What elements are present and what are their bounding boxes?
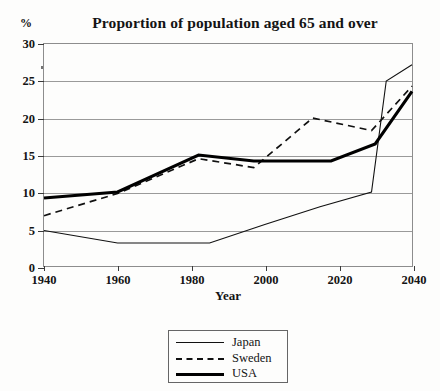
legend-label-sweden: Sweden: [232, 351, 272, 366]
x-axis-tick: [118, 266, 119, 271]
x-axis-tick-label: 1940: [32, 273, 57, 288]
y-axis-tick-label: 15: [23, 149, 36, 164]
chart-title: Proportion of population aged 65 and ove…: [55, 14, 415, 32]
x-axis-title: Year: [43, 288, 413, 304]
y-axis-unit-label: %: [20, 16, 32, 31]
y-axis-tick-label: 10: [23, 186, 36, 201]
x-axis-tick-label: 2000: [254, 273, 279, 288]
y-axis-tick-label: 30: [23, 37, 36, 52]
y-axis-tick-label: 5: [29, 223, 35, 238]
legend-item-usa: USA: [176, 365, 281, 381]
series-layer: [44, 44, 412, 266]
series-line-usa: [44, 91, 412, 198]
thin-solid-line-swatch-icon: [176, 337, 224, 347]
plot-area: 051015202530 194019601980200020202040: [43, 43, 413, 267]
legend-label-usa: USA: [232, 366, 257, 381]
series-line-japan: [44, 65, 412, 243]
legend-item-sweden: Sweden: [176, 350, 281, 366]
legend-item-japan: Japan: [176, 334, 281, 350]
legend-label-japan: Japan: [232, 335, 260, 350]
chart-figure: % Proportion of population aged 65 and o…: [0, 0, 440, 391]
y-axis-tick-label: 25: [23, 74, 36, 89]
x-axis-tick: [340, 266, 341, 271]
x-axis-tick-label: 1960: [106, 273, 131, 288]
y-axis-tick-label: 20: [23, 111, 36, 126]
x-axis-tick: [414, 266, 415, 271]
x-axis-tick: [44, 266, 45, 271]
x-axis-tick-label: 1980: [180, 273, 205, 288]
scan-artifact-speck: [41, 66, 43, 69]
x-axis-tick-label: 2020: [328, 273, 353, 288]
x-axis-tick: [192, 266, 193, 271]
x-axis-tick-label: 2040: [402, 273, 427, 288]
thick-solid-line-swatch-icon: [176, 368, 224, 378]
legend: Japan Sweden USA: [168, 330, 288, 383]
dashed-line-swatch-icon: [176, 353, 224, 363]
x-axis-tick: [266, 266, 267, 271]
